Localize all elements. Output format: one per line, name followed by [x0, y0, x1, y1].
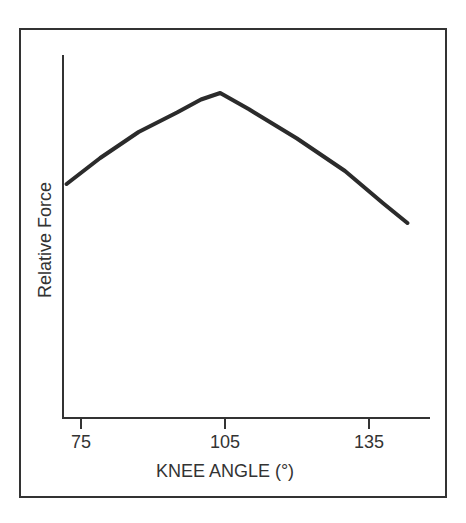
chart-plot: 75105135 KNEE ANGLE (°) Relative Force: [0, 0, 466, 523]
x-axis-label: KNEE ANGLE (°): [156, 461, 294, 481]
y-axis-label: Relative Force: [35, 182, 55, 298]
x-tick-label: 105: [210, 432, 240, 452]
x-tick-label: 75: [71, 432, 91, 452]
x-ticks: 75105135: [71, 418, 384, 452]
force-curve: [67, 93, 408, 223]
x-tick-label: 135: [354, 432, 384, 452]
